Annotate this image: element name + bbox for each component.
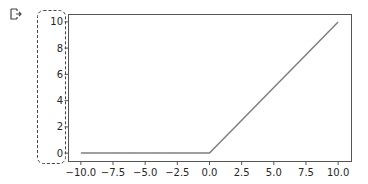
x-tick-label: 2.5 [234, 167, 250, 178]
series-line-relu [81, 22, 338, 153]
selection-box[interactable] [38, 11, 66, 164]
y-tick-label: 4 [57, 95, 63, 106]
y-tick-label: 10 [50, 16, 63, 27]
x-tick-label: −5.0 [133, 167, 157, 178]
y-tick-label: 2 [57, 121, 63, 132]
axes-frame [69, 15, 352, 162]
relu-line-chart: −10.0−7.5−5.0−2.50.02.55.07.510.00246810 [0, 0, 368, 184]
x-tick-label: 10.0 [327, 167, 349, 178]
y-tick-label: 0 [57, 148, 63, 159]
x-tick-label: 5.0 [266, 167, 282, 178]
x-tick-label: −7.5 [101, 167, 125, 178]
x-tick-label: −2.5 [165, 167, 189, 178]
x-tick-label: 7.5 [298, 167, 314, 178]
y-tick-label: 6 [57, 69, 63, 80]
x-tick-label: 0.0 [202, 167, 218, 178]
x-tick-label: −10.0 [66, 167, 97, 178]
y-tick-label: 8 [57, 43, 63, 54]
